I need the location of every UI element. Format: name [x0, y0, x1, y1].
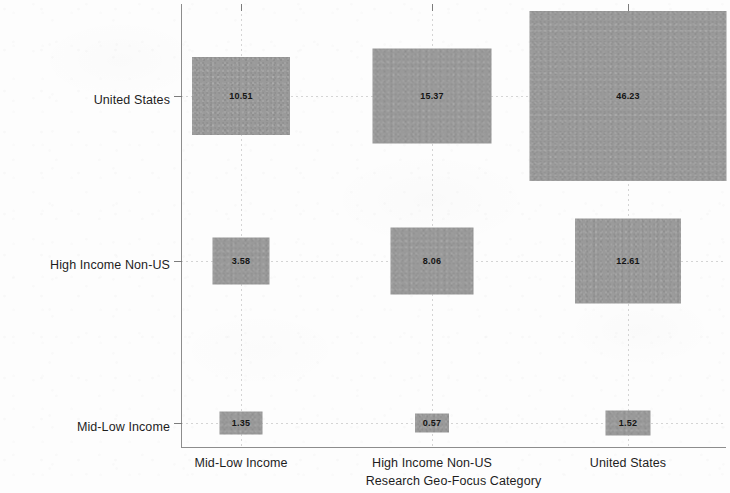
bubble-mid-low-income-mid-low-income[interactable]: 1.35: [220, 412, 263, 435]
y-tick-label-high-income-non-us: High Income Non-US: [50, 258, 170, 272]
bubble-high-income-non-us-high-income-non-us[interactable]: 8.06: [391, 228, 474, 295]
plot-area: 10.51 15.37 46.23 3.58 8.06 12.61 1.35 0…: [181, 4, 726, 448]
bubble-value-label: 1.35: [232, 419, 250, 428]
bubble-united-states-mid-low-income[interactable]: 1.52: [606, 411, 651, 436]
bubble-value-label: 15.37: [420, 92, 444, 101]
bubble-value-label: 10.51: [229, 92, 253, 101]
bubble-high-income-non-us-mid-low-income[interactable]: 0.57: [415, 414, 449, 433]
x-tick-label-mid-low-income: Mid-Low Income: [194, 456, 287, 470]
bubble-value-label: 46.23: [616, 92, 640, 101]
bubble-value-label: 3.58: [232, 257, 250, 266]
bubble-united-states-high-income-non-us[interactable]: 12.61: [575, 219, 681, 304]
x-axis-tick-mid-low-income: [241, 4, 242, 11]
x-tick-label-united-states: United States: [590, 456, 666, 470]
y-axis-tick-high-income-non-us: [174, 261, 181, 262]
bubble-mid-low-income-high-income-non-us[interactable]: 3.58: [213, 238, 270, 285]
x-axis-tick-high-income-non-us: [432, 4, 433, 11]
bubble-value-label: 8.06: [423, 257, 441, 266]
bubble-high-income-non-us-united-states[interactable]: 15.37: [373, 49, 492, 144]
y-tick-label-united-states: United States: [94, 93, 170, 107]
x-tick-label-high-income-non-us: High Income Non-US: [372, 456, 492, 470]
y-tick-label-mid-low-income: Mid-Low Income: [77, 420, 170, 434]
y-axis-tick-label-column: United States High Income Non-US Mid-Low…: [0, 4, 170, 448]
x-axis-title: Research Geo-Focus Category: [181, 474, 726, 488]
x-axis-tick-united-states: [628, 4, 629, 11]
bubble-value-label: 1.52: [619, 419, 637, 428]
x-axis-line: [181, 447, 726, 448]
x-axis-tick-label-row: Mid-Low Income High Income Non-US United…: [181, 456, 726, 476]
bubble-value-label: 12.61: [616, 257, 640, 266]
y-axis-tick-mid-low-income: [174, 423, 181, 424]
y-axis-tick-united-states: [174, 96, 181, 97]
y-axis-line: [181, 4, 182, 448]
bubble-mid-low-income-united-states[interactable]: 10.51: [192, 57, 290, 135]
chart-figure: United States High Income Non-US Mid-Low…: [0, 0, 730, 493]
bubble-united-states-united-states[interactable]: 46.23: [530, 11, 727, 181]
bubble-value-label: 0.57: [423, 419, 441, 428]
